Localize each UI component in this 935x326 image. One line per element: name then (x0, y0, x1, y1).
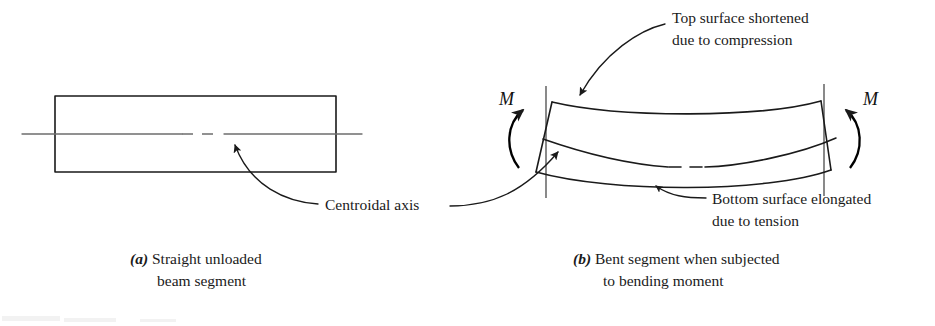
bent-centroidal-axis-right-segment (705, 138, 836, 167)
bottom-surface-label-line1: Bottom surface elongated (712, 190, 872, 207)
right-moment-arc (846, 110, 860, 168)
panel-a-group (22, 96, 362, 204)
scan-artifact-left (2, 316, 60, 321)
panel-b-group: M M (450, 24, 879, 206)
bent-beam-bottom-surface (536, 170, 831, 188)
bent-beam-right-end-face (821, 101, 831, 170)
left-moment-arc (509, 110, 523, 168)
panel-b-caption-tag: (b) (573, 250, 591, 268)
top-surface-leader (580, 24, 665, 95)
centroidal-axis-label: Centroidal axis (325, 196, 419, 213)
panel-a-caption-line1-text: Straight unloaded (148, 250, 262, 267)
centroidal-axis-leader-right (450, 152, 558, 206)
left-moment-label: M (498, 89, 515, 109)
scan-artifact-right (140, 319, 176, 322)
panel-b-caption-line2: to bending moment (603, 272, 724, 289)
bent-centroidal-axis-left-segment (543, 139, 668, 167)
panel-a-caption-tag: (a) (130, 250, 148, 268)
beam-bending-diagram: M M Centroidal axis Top surface shortene… (0, 0, 935, 326)
bottom-surface-label-line2: due to tension (712, 212, 799, 229)
top-surface-label-line1: Top surface shortened (672, 9, 809, 26)
figure-root: M M Centroidal axis Top surface shortene… (0, 0, 935, 326)
panel-a-caption-line1: (a) Straight unloaded (130, 250, 262, 268)
centroidal-axis-leader-left (235, 145, 318, 204)
panel-b-caption-line1-text: Bent segment when subjected (591, 250, 780, 267)
panel-b-caption-line1: (b) Bent segment when subjected (573, 250, 780, 268)
bent-beam-top-surface (552, 101, 821, 114)
scan-artifact-mid (64, 318, 116, 322)
top-surface-label-line2: due to compression (672, 31, 793, 48)
panel-a-caption-line2: beam segment (157, 272, 247, 289)
right-moment-label: M (862, 89, 879, 109)
